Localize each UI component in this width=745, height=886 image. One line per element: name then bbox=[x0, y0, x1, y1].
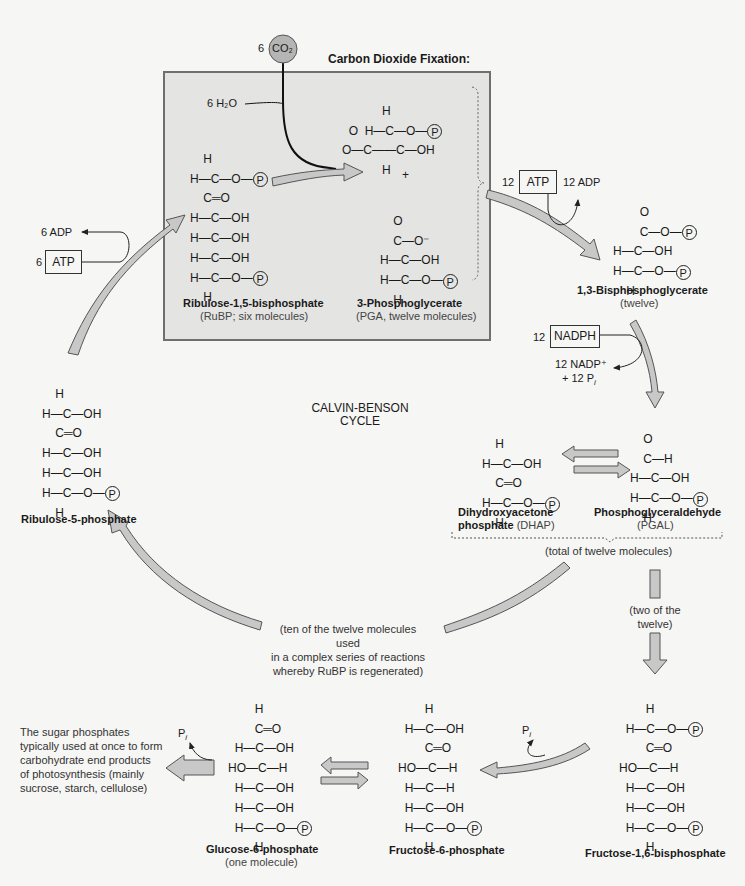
adp-right-label: 12 ADP bbox=[563, 176, 600, 188]
rubp-name: Ribulose-1,5-bisphosphate bbox=[183, 297, 324, 309]
atp-left-count: 6 bbox=[36, 256, 42, 268]
pi-label-g6p: Pi bbox=[178, 727, 187, 742]
cycle-label: CALVIN-BENSONCYCLE bbox=[300, 402, 420, 428]
co2-count: 6 bbox=[258, 42, 264, 54]
phosphate-icon: P bbox=[253, 271, 268, 286]
atp-right-box: ATP bbox=[519, 170, 557, 194]
f16bp-name: Fructose-1,6-bisphosphate bbox=[585, 847, 726, 859]
pgal-name: Phosphoglyceraldehyde bbox=[594, 506, 721, 518]
phosphate-icon: P bbox=[688, 722, 703, 737]
nadp-label: 12 NADP⁺ bbox=[555, 358, 607, 371]
phosphate-icon: P bbox=[676, 265, 691, 280]
phosphate-icon: P bbox=[693, 492, 708, 507]
pgal-sub: (PGAL) bbox=[637, 519, 674, 531]
phosphate-icon: P bbox=[467, 821, 482, 836]
adp-left-label: 6 ADP bbox=[41, 226, 72, 238]
dhap-structure: HH—C—OH C═OH—C—O—P H bbox=[482, 415, 560, 554]
bpg-sub: (twelve) bbox=[620, 297, 659, 309]
pga-structure-1: H O H—C—O—PO—C——C—OH H bbox=[342, 82, 442, 201]
h2o-label: 6 H₂O bbox=[207, 97, 237, 109]
two-of-twelve-note: (two of thetwelve) bbox=[620, 603, 690, 631]
ru5p-name: Ribulose-5-phosphate bbox=[21, 513, 137, 525]
atp-left-box: ATP bbox=[45, 250, 82, 274]
phosphate-icon: P bbox=[688, 821, 703, 836]
co2-label: CO₂ bbox=[272, 42, 293, 54]
pga-name: 3-Phosphoglycerate bbox=[357, 297, 462, 309]
pi-label-f16: Pi bbox=[522, 724, 531, 739]
pi-label-nadph: + 12 Pi bbox=[562, 372, 596, 387]
g6p-sub: (one molecule) bbox=[225, 856, 298, 868]
phosphate-icon: P bbox=[297, 821, 312, 836]
ten-of-twelve-note: (ten of the twelve molecules usedin a co… bbox=[268, 622, 428, 678]
end-products-note: The sugar phosphatestypically used at on… bbox=[20, 725, 180, 795]
rubp-sub: (RuBP; six molecules) bbox=[200, 310, 308, 322]
dhap-name: Dihydroxyacetone phosphate (DHAP) bbox=[458, 506, 555, 532]
g6p-name: Glucose-6-phosphate bbox=[206, 843, 318, 855]
phosphate-icon: P bbox=[253, 172, 268, 187]
pga-sub: (PGA, twelve molecules) bbox=[356, 310, 476, 322]
nadph-count: 12 bbox=[533, 331, 545, 343]
phosphate-icon: P bbox=[443, 274, 458, 289]
f6p-name: Fructose-6-phosphate bbox=[389, 844, 505, 856]
phosphate-icon: P bbox=[427, 124, 442, 139]
total-note: (total of twelve molecules) bbox=[545, 544, 672, 558]
phosphate-icon: P bbox=[682, 225, 697, 240]
phosphate-icon: P bbox=[105, 486, 120, 501]
fixation-title: Carbon Dioxide Fixation: bbox=[328, 52, 470, 66]
plus-sign: + bbox=[402, 168, 409, 182]
atp-right-count: 12 bbox=[502, 176, 514, 188]
bpg-name: 1,3-Bisphosphoglycerate bbox=[577, 284, 708, 296]
nadph-box: NADPH bbox=[550, 325, 600, 348]
